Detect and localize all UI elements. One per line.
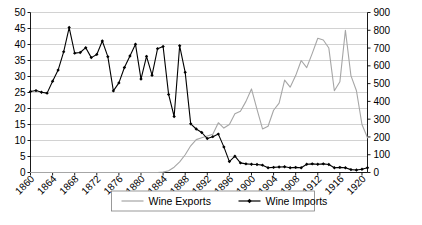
- y-axis-tick-label: 10: [14, 135, 26, 146]
- y2-axis-tick-label: 0: [374, 167, 380, 178]
- y2-axis-tick-label: 700: [374, 43, 391, 54]
- data-point-marker: [156, 47, 159, 50]
- axes: [28, 13, 371, 176]
- data-point-marker: [366, 166, 369, 169]
- data-point-marker: [322, 162, 325, 165]
- data-point-marker: [145, 55, 148, 58]
- data-point-marker: [266, 166, 269, 169]
- data-series: [29, 26, 369, 173]
- data-point-marker: [283, 165, 286, 168]
- data-point-marker: [161, 45, 164, 48]
- chart-container: 05101520253035404550 0100200300400500600…: [0, 0, 422, 225]
- y2-axis-tick-label: 900: [374, 7, 391, 18]
- x-axis-tick-label: 1920: [344, 173, 368, 197]
- data-point-marker: [349, 168, 352, 171]
- y-axis-right-labels: 0100200300400500600700800900: [374, 7, 391, 178]
- data-point-marker: [34, 89, 37, 92]
- data-point-marker: [360, 168, 363, 171]
- y-axis-tick-label: 20: [14, 103, 26, 114]
- y-axis-left-labels: 05101520253035404550: [14, 7, 26, 178]
- data-point-marker: [73, 51, 76, 54]
- y2-axis-tick-label: 300: [374, 114, 391, 125]
- data-point-marker: [123, 66, 126, 69]
- line-chart: 05101520253035404550 0100200300400500600…: [0, 0, 422, 225]
- data-point-marker: [134, 42, 137, 45]
- data-point-marker: [272, 166, 275, 169]
- data-point-marker: [355, 168, 358, 171]
- y-axis-tick-label: 30: [14, 71, 26, 82]
- chart-legend: Wine ExportsWine Imports: [112, 191, 328, 211]
- y-axis-tick-label: 45: [14, 23, 26, 34]
- data-point-marker: [45, 91, 48, 94]
- data-point-marker: [106, 55, 109, 58]
- y-axis-tick-label: 25: [14, 87, 26, 98]
- data-point-marker: [40, 90, 43, 93]
- series-line-wine-imports: [31, 28, 368, 170]
- data-point-marker: [255, 163, 258, 166]
- data-point-marker: [316, 162, 319, 165]
- x-axis-tick-label: 1860: [13, 173, 37, 197]
- y2-axis-tick-label: 200: [374, 132, 391, 143]
- legend-label: Wine Exports: [149, 195, 211, 207]
- x-axis-tick-label: 1864: [35, 173, 59, 197]
- data-point-marker: [101, 39, 104, 42]
- y-axis-tick-label: 50: [14, 7, 26, 18]
- y2-axis-tick-label: 400: [374, 96, 391, 107]
- legend-label: Wine Imports: [266, 195, 328, 207]
- data-point-marker: [167, 93, 170, 96]
- data-point-marker: [244, 162, 247, 165]
- y-axis-tick-label: 5: [20, 151, 26, 162]
- data-point-marker: [172, 115, 175, 118]
- y-axis-tick-label: 40: [14, 39, 26, 50]
- data-point-marker: [62, 50, 65, 53]
- y-axis-tick-label: 35: [14, 55, 26, 66]
- x-axis-tick-label: 1868: [57, 173, 81, 197]
- data-point-marker: [277, 165, 280, 168]
- data-point-marker: [217, 132, 220, 135]
- x-axis-tick-label: 1916: [322, 173, 346, 197]
- data-point-marker: [294, 166, 297, 169]
- data-point-marker: [222, 145, 225, 148]
- x-axis-tick-label: 1872: [79, 173, 103, 197]
- data-point-marker: [128, 54, 131, 57]
- data-point-marker: [250, 162, 253, 165]
- y-axis-tick-label: 15: [14, 119, 26, 130]
- data-point-marker: [211, 135, 214, 138]
- data-point-marker: [139, 77, 142, 80]
- y2-axis-tick-label: 500: [374, 78, 391, 89]
- gridlines: [31, 13, 368, 173]
- data-point-marker: [311, 162, 314, 165]
- data-point-marker: [338, 166, 341, 169]
- data-point-marker: [344, 166, 347, 169]
- y2-axis-tick-label: 600: [374, 60, 391, 71]
- y2-axis-tick-label: 800: [374, 25, 391, 36]
- y2-axis-tick-label: 100: [374, 149, 391, 160]
- data-point-marker: [288, 166, 291, 169]
- data-point-marker: [183, 71, 186, 74]
- data-point-marker: [261, 163, 264, 166]
